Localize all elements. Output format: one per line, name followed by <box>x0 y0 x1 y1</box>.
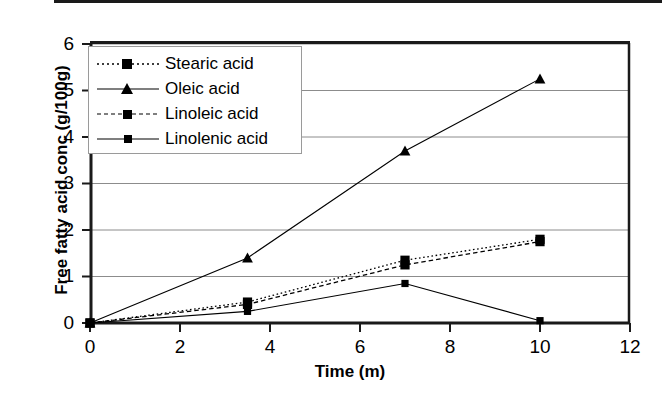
data-point <box>242 253 253 263</box>
legend-label-linolenic-acid: Linolenic acid <box>161 129 268 149</box>
y-tick-label-0: 0 <box>48 312 74 334</box>
legend-item-oleic-acid: Oleic acid <box>89 76 301 101</box>
legend-label-oleic-acid: Oleic acid <box>161 79 240 99</box>
data-point <box>535 73 546 83</box>
legend-label-linoleic-acid: Linoleic acid <box>161 104 259 124</box>
y-tick-label-2: 2 <box>48 219 74 241</box>
legend-key-stearic-acid <box>95 54 161 74</box>
data-point <box>86 319 93 326</box>
chart-legend: Stearic acid Oleic acid Linoleic acid Li… <box>88 46 302 154</box>
y-tick-label-1: 1 <box>48 265 74 287</box>
y-tick-label-6: 6 <box>48 33 74 55</box>
series-line <box>90 239 540 323</box>
legend-item-linolenic-acid: Linolenic acid <box>89 126 301 151</box>
x-tick-label-8: 8 <box>435 336 465 358</box>
legend-item-stearic-acid: Stearic acid <box>89 51 301 76</box>
series-line <box>90 283 540 323</box>
data-point <box>400 260 409 269</box>
x-tick-label-12: 12 <box>615 336 645 358</box>
series-line <box>90 242 540 323</box>
x-tick-label-6: 6 <box>345 336 375 358</box>
x-tick-label-2: 2 <box>165 336 195 358</box>
legend-label-stearic-acid: Stearic acid <box>161 54 254 74</box>
y-tick-label-4: 4 <box>48 126 74 148</box>
series-stearic-acid <box>85 235 544 328</box>
x-tick-label-4: 4 <box>255 336 285 358</box>
data-point <box>244 308 251 315</box>
data-point <box>400 146 411 156</box>
x-tick-label-0: 0 <box>75 336 105 358</box>
x-axis-title: Time (m) <box>260 362 440 382</box>
legend-key-oleic-acid <box>95 79 161 99</box>
y-tick-label-5: 5 <box>48 79 74 101</box>
legend-key-linolenic-acid <box>95 129 161 149</box>
legend-key-linoleic-acid <box>95 104 161 124</box>
series-linoleic-acid <box>85 237 544 328</box>
y-tick-label-3: 3 <box>48 172 74 194</box>
data-point <box>243 300 252 309</box>
chart-figure: Free fatty acid conc (g/100g) Time (m) 6… <box>0 0 662 402</box>
data-point <box>401 280 408 287</box>
data-point <box>535 237 544 246</box>
legend-item-linoleic-acid: Linoleic acid <box>89 101 301 126</box>
data-point <box>536 317 543 324</box>
x-tick-label-10: 10 <box>525 336 555 358</box>
